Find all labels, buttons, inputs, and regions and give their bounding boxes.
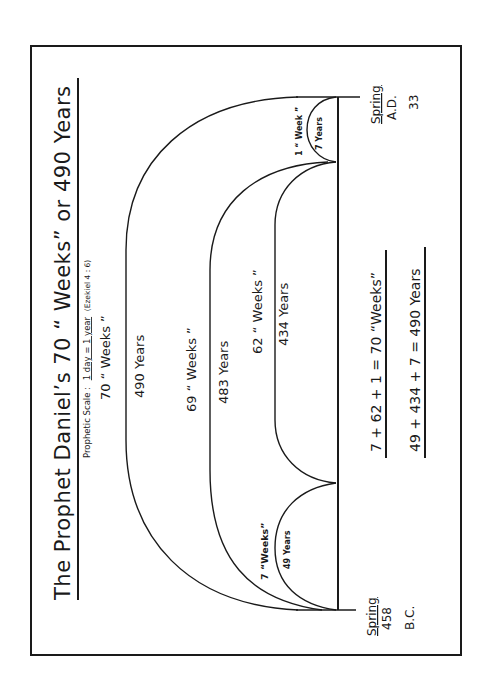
end-era: A.D.: [385, 95, 399, 120]
start-year: 458: [380, 607, 394, 630]
scale-reference: (Ezekiel 4 : 6): [83, 260, 92, 312]
equation-weeks: 7 + 62 + 1 = 70 “Weeks”: [368, 272, 384, 452]
equation-weeks-group: 7 + 62 + 1 = 70 “Weeks”: [368, 250, 386, 458]
label-490-years: 490 Years: [132, 335, 147, 398]
end-date-group: Spring: [369, 85, 383, 124]
title-group: The Prophet Daniel’s 70 “ Weeks” or 490 …: [51, 78, 78, 601]
label-1-week: 1 “ Week ”: [295, 107, 304, 156]
diagram-frame: [31, 46, 461, 655]
svg-text:Prophetic Scale : 1 day: Prophetic Scale : 1 day = 1 year (Ezekie…: [82, 260, 92, 458]
equation-years-group: 49 + 434 + 7 = 490 Years: [407, 247, 425, 458]
label-7-years: 7 Years: [315, 117, 324, 150]
end-year: 33: [407, 95, 421, 110]
label-483-years: 483 Years: [216, 341, 231, 404]
diagram-title: The Prophet Daniel’s 70 “ Weeks” or 490 …: [51, 85, 75, 601]
scale-prefix: Prophetic Scale :: [82, 387, 92, 458]
label-434-years: 434 Years: [276, 283, 291, 346]
label-7-weeks: 7 “Weeks”: [259, 523, 270, 580]
label-70-weeks: 70 “ Weeks ”: [98, 315, 113, 400]
scale-group: Prophetic Scale : 1 day = 1 year (Ezekie…: [82, 260, 92, 458]
label-69-weeks: 69 “ Weeks ”: [184, 327, 199, 412]
start-date-group: Spring: [365, 597, 379, 636]
start-era: B.C.: [403, 606, 417, 630]
equation-years: 49 + 434 + 7 = 490 Years: [407, 269, 423, 452]
scale-equation: 1 day = 1 year: [82, 316, 92, 380]
label-62-weeks: 62 “ Weeks ”: [250, 269, 265, 354]
start-season: Spring: [365, 597, 379, 636]
label-49-years: 49 Years: [283, 530, 292, 569]
end-season: Spring: [369, 85, 383, 124]
daniel-70-weeks-diagram: The Prophet Daniel’s 70 “ Weeks” or 490 …: [0, 0, 487, 693]
